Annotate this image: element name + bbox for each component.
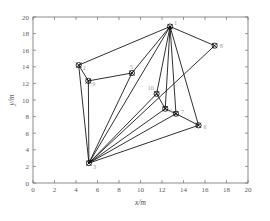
graph-edge-8-3 [89, 46, 215, 163]
y-tick-label: 10 [22, 97, 30, 105]
y-tick-label: 6 [26, 130, 30, 138]
x-tick-label: 20 [245, 186, 253, 194]
node-label-2: 2 [83, 65, 86, 71]
graph-edge-2-1 [79, 27, 170, 66]
graph-node-6[interactable]: 6 [196, 123, 207, 131]
x-tick-label: 16 [202, 186, 210, 194]
node-label-5: 5 [130, 64, 133, 70]
node-label-8: 8 [220, 43, 223, 49]
y-tick-label: 12 [22, 80, 30, 88]
graph-edge-9-5 [88, 73, 132, 81]
node-label-4: 4 [169, 108, 172, 114]
graph-edge-4-3 [89, 109, 165, 163]
graph-edge-9-3 [88, 81, 89, 163]
y-axis-title: y/m [7, 94, 16, 106]
graph-edge-1-6 [170, 27, 198, 126]
graph-node-3[interactable]: 3 [86, 160, 96, 170]
x-tick-label: 12 [159, 186, 167, 194]
x-tick-label: 0 [31, 186, 35, 194]
x-tick-label: 4 [74, 186, 78, 194]
node-label-1: 1 [174, 20, 177, 26]
y-tick-label: 4 [26, 146, 30, 154]
y-tick-label: 0 [26, 180, 30, 188]
x-tick-label: 2 [53, 186, 57, 194]
graph-edge-7-3 [89, 114, 176, 163]
graph-edge-10-3 [89, 94, 157, 163]
node-label-9: 9 [92, 81, 95, 87]
node-label-10: 10 [148, 85, 154, 91]
x-tick-label: 18 [223, 186, 231, 194]
x-tick-label: 8 [117, 186, 121, 194]
plot-frame [33, 17, 248, 183]
graph-node-1[interactable]: 1 [167, 20, 177, 30]
graph-edge-1-8 [170, 27, 215, 46]
graph-node-4[interactable]: 4 [163, 106, 173, 114]
graph-edge-6-3 [89, 125, 199, 163]
graph-edges [79, 27, 215, 164]
node-label-6: 6 [204, 124, 207, 130]
x-tick-label: 14 [180, 186, 188, 194]
scatter-plot: 0246810121416182002468101214161820 12345… [0, 0, 270, 221]
y-tick-label: 16 [22, 47, 30, 55]
node-label-7: 7 [181, 109, 184, 115]
graph-edge-5-1 [132, 27, 170, 73]
node-label-3: 3 [93, 164, 96, 170]
x-tick-label: 6 [96, 186, 100, 194]
graph-node-2[interactable]: 2 [76, 63, 86, 72]
graph-edge-7-6 [176, 114, 199, 126]
y-tick-label: 8 [26, 113, 30, 121]
y-tick-label: 14 [22, 63, 30, 71]
x-axis-title: x/m [134, 198, 146, 207]
figure-container: 0246810121416182002468101214161820 12345… [0, 0, 270, 221]
graph-edge-1-7 [170, 27, 176, 114]
y-tick-label: 20 [22, 14, 30, 22]
y-tick-label: 2 [26, 163, 30, 171]
y-tick-label: 18 [22, 30, 30, 38]
x-tick-label: 10 [137, 186, 145, 194]
